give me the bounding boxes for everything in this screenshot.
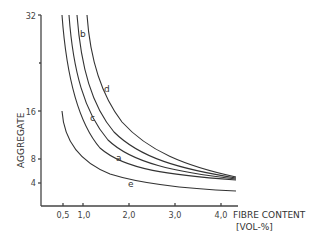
y-axis-label: AGGREGATE [16, 112, 26, 168]
x-axis-unit: [VOL-%] [236, 222, 273, 232]
curve-label-d: d [104, 84, 110, 94]
y-tick-label-32: 32 [26, 11, 36, 21]
curve-label-b: b [80, 29, 86, 39]
curve-b [77, 15, 236, 178]
y-tick-label-4: 4 [31, 178, 36, 188]
y-tick-label-16: 16 [26, 107, 36, 117]
x-tick-label-2.0: 2,0 [123, 210, 136, 220]
x-tick-label-0.5: 0,5 [57, 210, 70, 220]
curve-d [87, 15, 236, 177]
chart: 32 16 8 4 AGGREGATE 0,5 1,0 2,0 3,0 4,0 … [0, 0, 317, 239]
curve-label-e: e [128, 179, 134, 189]
y-tick-label-8: 8 [31, 154, 36, 164]
curve-label-c: c [90, 113, 95, 123]
x-tick-label-3.0: 3,0 [169, 210, 182, 220]
x-tick-label-4.0: 4,0 [215, 210, 228, 220]
curve-e [62, 111, 236, 191]
x-tick-label-1.0: 1,0 [78, 210, 91, 220]
curve-label-a: a [116, 153, 122, 163]
x-axis-label: FIBRE CONTENT [233, 210, 306, 220]
